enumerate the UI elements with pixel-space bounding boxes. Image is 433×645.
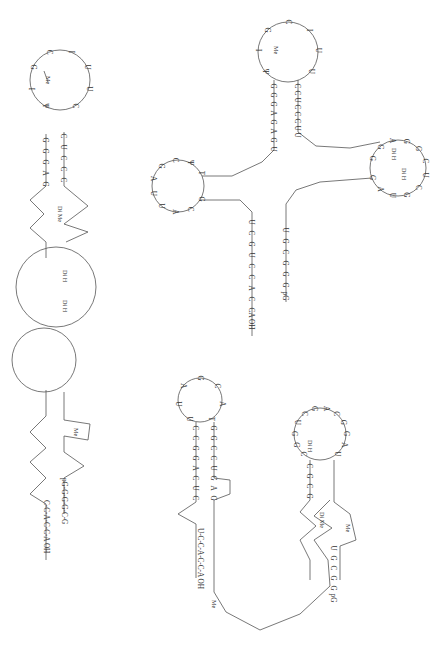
middle-loop xyxy=(16,247,96,327)
nucleotide: C xyxy=(414,185,422,190)
right-strand-nucleotides: CUCCC xyxy=(59,134,67,183)
nucleotide: T xyxy=(197,171,205,176)
di-me-label: Di Me xyxy=(57,206,64,222)
nucleotide: C xyxy=(293,119,301,124)
nucleotide: C xyxy=(305,464,313,469)
nucleotide: A xyxy=(376,187,384,193)
three-prime-end: C-C-A-C-C-A OH xyxy=(42,500,50,553)
nucleotide: A xyxy=(340,442,348,448)
nucleotide: G xyxy=(329,585,337,590)
five-prime-end: pG-G-G-G-C-G xyxy=(60,478,68,524)
nucleotide: T xyxy=(207,417,215,422)
nucleotide: U xyxy=(191,485,199,491)
nucleotide: U xyxy=(329,545,337,551)
nucleotide: C xyxy=(299,452,307,457)
nucleotide: C xyxy=(209,456,217,461)
right-stem-outer xyxy=(334,460,356,580)
nucleotide: G xyxy=(310,406,318,411)
nucleotide: U xyxy=(185,416,193,422)
nucleotide: G xyxy=(41,181,49,186)
nucleotide: A xyxy=(322,406,330,412)
nucleotide: C xyxy=(191,496,199,501)
me-label-2: Me xyxy=(345,524,352,533)
nucleotide: G xyxy=(305,493,313,498)
di-h-label-2: Di H xyxy=(62,300,69,313)
nucleotide: C xyxy=(329,566,337,571)
nucleotide: A xyxy=(149,176,157,182)
nucleotide: G xyxy=(209,475,217,480)
nucleotide: A OH xyxy=(247,313,255,330)
nucleotide: I xyxy=(27,88,35,91)
nucleotide: U xyxy=(149,191,157,197)
nucleotide: pG xyxy=(329,594,337,603)
nucleotide: G xyxy=(402,139,410,144)
nucleotide: U xyxy=(269,146,277,152)
nucleotide: U xyxy=(333,451,341,457)
nucleotide: C xyxy=(332,411,340,416)
nucleotide: A xyxy=(388,138,396,144)
alternative-model: UUAGCATCCGGACUCGGCCUGAGCGGUCGACGGAUCGCGU… xyxy=(174,375,356,630)
nucleotide: G xyxy=(368,175,376,180)
nucleotide: C xyxy=(186,207,194,212)
nucleotide: U xyxy=(59,144,67,150)
nucleotide: G xyxy=(339,420,347,425)
nucleotide: C xyxy=(191,476,199,481)
nucleotide: C xyxy=(247,297,255,302)
nucleotide: C xyxy=(293,112,301,117)
acceptor-5prime xyxy=(286,178,372,302)
me-label: Me xyxy=(211,600,218,609)
nucleotide: C xyxy=(293,91,301,96)
di-h-label-1: Di H xyxy=(391,148,398,161)
nucleotide: A xyxy=(247,285,255,291)
anticodon-loop-nucleotides: ΨIGCIUU xyxy=(254,20,322,75)
nucleotide: A xyxy=(191,465,199,471)
di-h-label-2: Di H xyxy=(401,168,408,181)
nucleotide: C xyxy=(191,436,199,441)
nucleotide: G xyxy=(269,101,277,106)
nucleotide: G xyxy=(368,156,376,161)
nucleotide: C xyxy=(171,158,179,163)
nucleotide: U xyxy=(293,132,301,138)
nucleotide: G xyxy=(41,148,49,153)
nucleotide: Ψ xyxy=(261,69,269,75)
nucleotide: G xyxy=(269,92,277,97)
nucleotide: G xyxy=(269,119,277,124)
nucleotide: C xyxy=(45,50,53,55)
me-label-lower: Me xyxy=(73,428,80,437)
di-h-label: Di H xyxy=(307,440,314,453)
nucleotide: G xyxy=(209,495,217,500)
nucleotide: G xyxy=(281,271,289,276)
nucleotide: G xyxy=(29,64,37,69)
nucleotide: C xyxy=(247,275,255,280)
nucleotide: U xyxy=(157,203,165,209)
lower-loop xyxy=(12,328,76,392)
nucleotide: G xyxy=(292,442,300,447)
nucleotide: G xyxy=(414,146,422,151)
anticodon-stem-left xyxy=(202,80,274,176)
nucleotide: G xyxy=(191,455,199,460)
nucleotide: I xyxy=(305,29,313,32)
nucleotide: U xyxy=(209,465,217,471)
nucleotide: U xyxy=(247,252,255,258)
nucleotide: U xyxy=(247,219,255,225)
nucleotide: G xyxy=(342,431,350,436)
nucleotide: G xyxy=(329,555,337,560)
nucleotide: G xyxy=(281,260,289,265)
nucleotide: A xyxy=(218,401,226,407)
nucleotide: C xyxy=(247,264,255,269)
nucleotide: A xyxy=(269,128,277,134)
nucleotide: G xyxy=(209,435,217,440)
nucleotide: G xyxy=(402,192,410,197)
top-loop-nucleotides: ΨIGCIUUC xyxy=(27,50,92,110)
nucleotide: G xyxy=(209,425,217,430)
nucleotide: U xyxy=(83,64,91,70)
cloverleaf-nucleotides: GGGAGAGUCCUCCCUUUCGUCCACCA OHUGCGGGpGGCA… xyxy=(149,83,429,329)
nucleotide: U xyxy=(293,97,301,103)
three-prime-end: U-C-C-A-C-C-A OH xyxy=(196,528,204,589)
nucleotide: C xyxy=(59,156,67,161)
nucleotide: U xyxy=(293,125,301,131)
anticodon-stem-right xyxy=(298,80,380,148)
nucleotide: G xyxy=(269,137,277,142)
nucleotide: pG xyxy=(281,292,289,301)
nucleotide: G xyxy=(197,196,205,201)
